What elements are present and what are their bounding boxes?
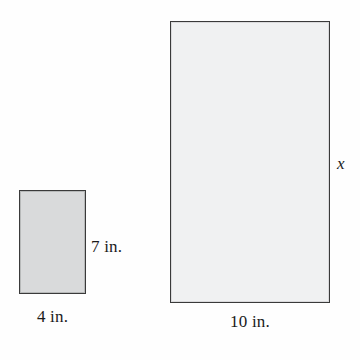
small-rectangle-shape: [19, 190, 86, 294]
large-rectangle-height-label: x: [337, 155, 345, 172]
small-rectangle-width-label: 4 in.: [19, 308, 86, 325]
large-rectangle-width-label: 10 in.: [170, 313, 330, 330]
small-rectangle-height-label: 7 in.: [91, 238, 122, 255]
large-rectangle-shape: [170, 21, 330, 303]
geometry-figure: 7 in. 4 in. 10 in. x: [0, 0, 360, 360]
